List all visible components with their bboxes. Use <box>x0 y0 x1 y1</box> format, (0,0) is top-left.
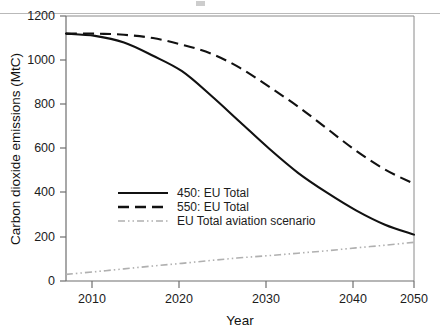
y-axis-ticks <box>60 16 66 281</box>
x-tick-label: 2020 <box>165 292 193 306</box>
x-axis-title: Year <box>226 313 254 328</box>
x-axis-ticks <box>92 281 414 288</box>
legend-label-550-eu-total: 550: EU Total <box>177 200 249 214</box>
x-tick-labels: 2010 2020 2030 2040 2050 <box>78 292 428 306</box>
legend-label-eu-total-aviation-scenario: EU Total aviation scenario <box>177 214 316 228</box>
plot-frame <box>66 16 414 281</box>
x-tick-label: 2050 <box>400 292 428 306</box>
y-tick-label: 0 <box>48 274 55 288</box>
y-tick-label: 1000 <box>27 53 55 67</box>
x-tick-label: 2040 <box>339 292 367 306</box>
y-tick-label: 600 <box>34 141 55 155</box>
y-tick-label: 200 <box>34 230 55 244</box>
x-tick-label: 2030 <box>252 292 280 306</box>
y-axis-title: Carbon dioxide emissions (MtC) <box>8 53 23 245</box>
y-tick-label: 400 <box>34 185 55 199</box>
series-line-550-eu-total <box>66 34 414 184</box>
y-tick-labels: 1200 1000 800 600 400 200 0 <box>27 9 55 288</box>
figure-container: 1200 1000 800 600 400 200 0 2010 2020 20… <box>0 0 440 332</box>
x-tick-label: 2010 <box>78 292 106 306</box>
y-tick-label: 1200 <box>27 9 55 23</box>
series-line-eu-total-aviation-scenario <box>66 242 414 274</box>
line-chart: 1200 1000 800 600 400 200 0 2010 2020 20… <box>0 0 440 332</box>
y-tick-label: 800 <box>34 97 55 111</box>
legend: 450: EU Total 550: EU Total EU Total avi… <box>118 186 316 228</box>
series-group <box>66 34 414 275</box>
legend-label-450-eu-total: 450: EU Total <box>177 186 249 200</box>
